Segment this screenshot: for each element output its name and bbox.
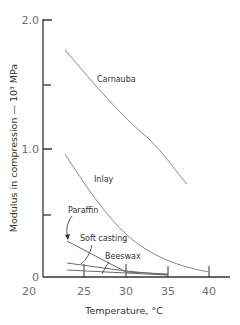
y-tick-label-1: 1.0 <box>22 143 40 156</box>
y-tick-label-0: 0 <box>32 271 39 284</box>
label-inlay: Inlay <box>94 175 114 184</box>
chart: 2.0 1.0 0 20 25 30 35 40 Temperature, °C… <box>0 0 240 325</box>
x-tick-label-20: 20 <box>22 285 36 298</box>
x-axis-title: Temperature, °C <box>84 305 163 316</box>
label-soft-casting: Soft casting <box>80 234 127 243</box>
y-tick-label-2: 2.0 <box>22 14 40 27</box>
x-tick-label-25: 25 <box>77 285 91 298</box>
label-paraffin: Paraffin <box>68 206 98 215</box>
x-tick-label-35: 35 <box>161 285 175 298</box>
x-tick-label-40: 40 <box>202 285 216 298</box>
paraffin-arrowhead <box>65 234 70 240</box>
series-soft-casting <box>67 263 168 275</box>
label-beeswax: Beeswax <box>105 252 141 261</box>
x-tick-label-30: 30 <box>119 285 133 298</box>
series-carnauba <box>65 50 187 184</box>
label-carnauba: Carnauba <box>97 75 136 84</box>
soft-casting-pointer <box>81 245 92 264</box>
series-beeswax <box>67 270 168 275</box>
y-axis-title: Modulus in compression — 10³ MPa <box>8 64 19 232</box>
